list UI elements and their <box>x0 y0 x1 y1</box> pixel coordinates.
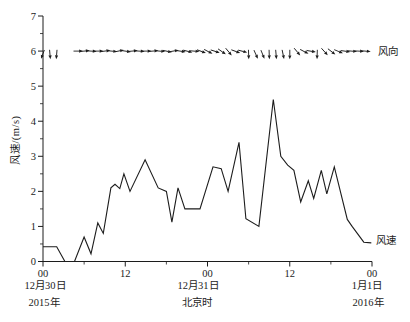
wind-direction-arrow <box>247 50 251 60</box>
x-date-label-dec31: 12月31日 <box>178 281 219 292</box>
x-date-label-2016: 2016年 <box>353 298 384 309</box>
wind-direction-arrow <box>238 49 248 55</box>
wind-direction-arrow <box>259 49 265 59</box>
y-tick-label: 5 <box>31 81 36 92</box>
y-tick-label: 6 <box>31 46 36 57</box>
wind-direction-arrow <box>315 50 319 60</box>
wind-direction-arrow <box>320 47 329 56</box>
wind-speed-line <box>43 100 371 262</box>
wind-direction-arrow <box>327 47 336 55</box>
x-tick-label: 00 <box>38 268 49 279</box>
y-tick-label: 2 <box>31 186 36 197</box>
series-label-wind-speed: 风速 <box>376 236 396 247</box>
wind-direction-arrow <box>267 50 271 60</box>
series-label-wind-direction: 风向 <box>378 47 398 58</box>
wind-direction-arrow <box>176 49 186 53</box>
wind-direction-arrow <box>48 50 52 60</box>
wind-direction-arrow <box>361 49 371 53</box>
y-tick-label: 1 <box>31 221 36 232</box>
x-tick-label: 12 <box>120 268 131 279</box>
wind-direction-arrow <box>252 49 259 59</box>
wind-chart-canvas: 012345670012001200 <box>0 0 410 322</box>
wind-direction-arrow <box>299 48 309 55</box>
x-tick-label: 00 <box>202 268 213 279</box>
y-axis-title: 风速/(m/s) <box>11 115 22 164</box>
wind-direction-arrow <box>203 48 213 55</box>
wind-direction-arrow <box>156 49 166 53</box>
wind-direction-arrow <box>281 50 286 60</box>
wind-direction-arrow <box>224 47 232 56</box>
x-date-label-jan1: 1月1日 <box>352 281 383 292</box>
wind-direction-arrow <box>231 48 241 54</box>
wind-direction-arrow <box>334 48 344 54</box>
x-axis-title: 北京时 <box>182 298 212 309</box>
wind-direction-arrow <box>108 49 118 53</box>
wind-direction-arrow <box>288 50 291 59</box>
wind-direction-arrow <box>217 48 227 56</box>
x-date-label-2015: 2015年 <box>29 298 60 309</box>
y-tick-label: 3 <box>31 151 36 162</box>
y-tick-label: 0 <box>31 256 36 267</box>
x-date-label-dec30: 12月30日 <box>25 281 66 292</box>
wind-direction-arrow <box>55 50 59 60</box>
x-tick-label: 12 <box>285 268 296 279</box>
wind-direction-arrow <box>274 50 278 60</box>
chart-figure: 012345670012001200 风速/(m/s) 风向 风速 12月30日… <box>0 0 410 322</box>
x-tick-label: 00 <box>367 268 378 279</box>
y-tick-label: 4 <box>31 116 37 127</box>
y-tick-label: 7 <box>31 11 36 22</box>
wind-direction-arrow <box>293 47 301 56</box>
